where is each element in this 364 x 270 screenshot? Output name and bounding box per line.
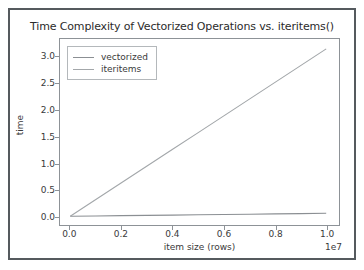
figure-border: Time Complexity of Vectorized Operations… xyxy=(8,8,356,260)
x-axis-offset-text: 1e7 xyxy=(325,242,342,252)
x-tick-label: 0.4 xyxy=(152,229,192,239)
legend-line-swatch xyxy=(73,57,94,58)
x-tick-label: 0.8 xyxy=(256,229,296,239)
matplotlib-figure: Time Complexity of Vectorized Operations… xyxy=(10,10,354,258)
x-tick-label: 0.2 xyxy=(101,229,141,239)
legend-label: iteritems xyxy=(101,64,141,74)
x-tick-label: 1.0 xyxy=(307,229,347,239)
x-axis-ticklabels: 0.00.20.40.60.81.0 xyxy=(59,229,340,243)
legend-entry: vectorized xyxy=(73,51,148,63)
x-tick-label: 0.6 xyxy=(204,229,244,239)
x-axis-tickmarks xyxy=(59,10,340,234)
x-axis-label: item size (rows) xyxy=(59,242,340,252)
legend-label: vectorized xyxy=(101,52,148,62)
chart-legend: vectorizediteritems xyxy=(67,46,157,80)
y-axis-label: time xyxy=(15,102,25,148)
x-tick-label: 0.0 xyxy=(49,229,89,239)
legend-line-swatch xyxy=(73,69,94,70)
legend-entry: iteritems xyxy=(73,63,148,75)
screenshot-root: Time Complexity of Vectorized Operations… xyxy=(0,0,364,270)
